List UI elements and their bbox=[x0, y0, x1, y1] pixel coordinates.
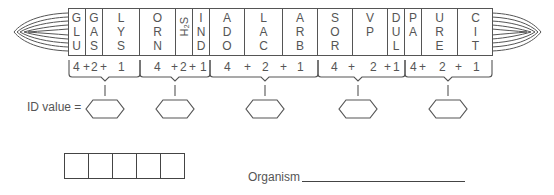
weight-4-group-4: 4 bbox=[331, 60, 338, 74]
plus-sign: + bbox=[189, 60, 196, 74]
plus-sign: + bbox=[348, 60, 355, 74]
id-digit-box-5[interactable] bbox=[160, 153, 185, 179]
weight-2-group-3: 2 bbox=[262, 60, 269, 74]
plus-sign: + bbox=[244, 60, 251, 74]
plus-sign: + bbox=[419, 60, 426, 74]
id-value-hexagon-2[interactable] bbox=[156, 100, 194, 118]
id-value-hexagon-3[interactable] bbox=[246, 100, 284, 118]
id-digit-box-2[interactable] bbox=[88, 153, 113, 179]
test-cell-sor: S O R bbox=[318, 8, 353, 56]
id-digit-box-3[interactable] bbox=[112, 153, 137, 179]
id-digit-box-1[interactable] bbox=[64, 153, 89, 179]
strip-left-end-icon bbox=[14, 13, 68, 51]
test-cell-ado: A D O bbox=[210, 8, 245, 56]
weight-4-group-5: 4 bbox=[410, 60, 417, 74]
id-digit-box-4[interactable] bbox=[136, 153, 161, 179]
weight-1-group-1: 1 bbox=[118, 60, 125, 74]
id-value-hexagon-5[interactable] bbox=[429, 100, 467, 118]
weight-1-group-3: 1 bbox=[297, 60, 304, 74]
test-cell-pa: P A bbox=[405, 8, 422, 56]
h2s-label: H₂S bbox=[177, 17, 191, 37]
id-number-boxes bbox=[65, 153, 185, 179]
organism-answer-line[interactable] bbox=[302, 181, 465, 182]
plus-sign: + bbox=[171, 60, 178, 74]
test-cell-h2s: H₂S bbox=[176, 8, 193, 56]
plus-sign: + bbox=[280, 60, 287, 74]
strip-right-end-icon bbox=[492, 13, 541, 51]
id-value-label: ID value = bbox=[27, 100, 81, 114]
weight-1-group-2: 1 bbox=[200, 60, 207, 74]
id-value-hexagon-4[interactable] bbox=[339, 100, 377, 118]
weight-2-group-4: 2 bbox=[370, 60, 377, 74]
weight-1-group-4: 1 bbox=[393, 60, 400, 74]
plus-sign: + bbox=[455, 60, 462, 74]
weight-4-group-2: 4 bbox=[154, 60, 161, 74]
weight-2-group-1: 2 bbox=[91, 60, 98, 74]
test-cell-cit: C I T bbox=[458, 8, 493, 56]
organism-label: Organism bbox=[248, 170, 300, 184]
test-cell-orn: O R N bbox=[140, 8, 176, 56]
test-cell-lac: L A C bbox=[245, 8, 283, 56]
weight-1-group-5: 1 bbox=[473, 60, 480, 74]
weight-2-group-5: 2 bbox=[439, 60, 446, 74]
test-cell-lys: L Y S bbox=[103, 8, 140, 56]
test-cell-vp: V P bbox=[353, 8, 388, 56]
test-cell-glu: G L U bbox=[68, 8, 86, 56]
test-cell-gas: G A S bbox=[86, 8, 103, 56]
weight-2-group-2: 2 bbox=[180, 60, 187, 74]
test-cell-ure: U R E bbox=[422, 8, 458, 56]
plus-sign: + bbox=[100, 60, 107, 74]
test-cell-arb: A R B bbox=[283, 8, 318, 56]
plus-sign: + bbox=[83, 60, 90, 74]
weight-4-group-1: 4 bbox=[73, 60, 80, 74]
test-cell-dul: D U L bbox=[388, 8, 405, 56]
plus-sign: + bbox=[384, 60, 391, 74]
id-value-hexagon-1[interactable] bbox=[86, 100, 124, 118]
test-cell-ind: I N D bbox=[193, 8, 210, 56]
weight-4-group-3: 4 bbox=[224, 60, 231, 74]
